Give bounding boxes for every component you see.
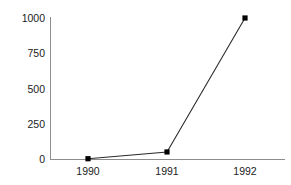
y-tick-label-750: 750 bbox=[27, 47, 45, 59]
x-tick-label-1991: 1991 bbox=[155, 165, 179, 177]
x-tick-label-1992: 1992 bbox=[233, 165, 257, 177]
y-tick-label-1000: 1000 bbox=[22, 12, 46, 24]
series-markers bbox=[85, 15, 247, 161]
data-point-1991 bbox=[164, 149, 169, 154]
y-tick-label-500: 500 bbox=[27, 83, 45, 95]
x-tick-label-1990: 1990 bbox=[76, 165, 100, 177]
y-tick-label-0: 0 bbox=[39, 153, 45, 165]
chart-plot-area: 1000 750 500 250 0 1990 1991 1992 bbox=[0, 0, 291, 185]
series-line bbox=[88, 18, 245, 159]
data-point-1990 bbox=[85, 156, 90, 161]
y-tick-label-250: 250 bbox=[27, 118, 45, 130]
data-point-1992 bbox=[242, 15, 247, 20]
line-chart: 1000 750 500 250 0 1990 1991 1992 bbox=[0, 0, 291, 185]
